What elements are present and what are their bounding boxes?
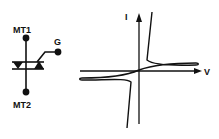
triac-diagram: MT1 G MT2 I V (0, 0, 219, 139)
mt1-label: MT1 (13, 25, 31, 35)
voltage-axis-arrow-icon (194, 68, 202, 74)
diode-down-icon (13, 62, 23, 69)
gate-lead (37, 52, 58, 62)
triac-symbol: MT1 G MT2 (12, 25, 61, 110)
current-axis-arrow-icon (136, 13, 142, 22)
quadrant-3-curve (80, 70, 139, 128)
iv-characteristic: I V (80, 12, 210, 128)
mt2-terminal-dot (23, 89, 28, 94)
gate-label: G (54, 37, 61, 47)
mt2-label: MT2 (13, 100, 31, 110)
quadrant-1-curve (139, 12, 198, 70)
gate-terminal-dot (55, 49, 60, 54)
voltage-axis-label: V (204, 67, 210, 77)
current-axis-label: I (125, 12, 128, 22)
